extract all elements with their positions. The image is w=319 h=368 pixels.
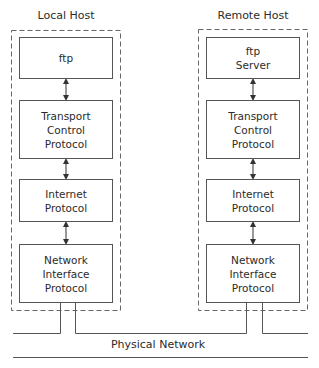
local-ip-box: Internet Protocol: [19, 179, 113, 222]
local-tcp-box: Transport Control Protocol: [19, 100, 113, 159]
physical-network-label: Physical Network: [78, 338, 238, 351]
local-nic-box: Network Interface Protocol: [19, 244, 113, 303]
remote-ftp-server-box: ftp Server: [206, 37, 300, 79]
local-ftp-box: ftp: [19, 37, 113, 79]
local-host-title: Local Host: [6, 9, 126, 22]
remote-host-title: Remote Host: [193, 9, 313, 22]
remote-nic-box: Network Interface Protocol: [206, 244, 300, 303]
remote-ip-box: Internet Protocol: [206, 179, 300, 222]
remote-tcp-box: Transport Control Protocol: [206, 100, 300, 159]
